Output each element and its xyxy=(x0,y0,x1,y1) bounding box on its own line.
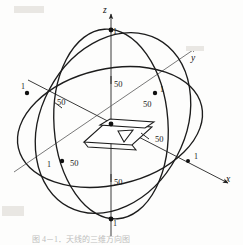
radiation-pattern-diagram: z y x 1 1 1 1 1 1 50 50 50 50 50 50 xyxy=(0,0,243,245)
peak-dot-x-positive xyxy=(186,159,190,163)
tick-label-z-negative: 1 xyxy=(113,219,117,228)
peak-dot-y-negative xyxy=(25,91,29,95)
hp-label-left: 50 xyxy=(57,97,66,107)
y-axis-line xyxy=(14,48,196,172)
z-axis-label: z xyxy=(102,5,107,15)
figure-container: z y x 1 1 1 1 1 1 50 50 50 50 50 50 图 4－… xyxy=(0,0,243,245)
hp-label-lower-left: 50 xyxy=(70,158,79,168)
hp-label-top: 50 xyxy=(114,79,123,89)
hp-label-upper-right: 50 xyxy=(143,99,152,109)
tick-label-y-positive: 1 xyxy=(160,85,164,94)
figure-caption-strip: 图 4－1．天线的三维方向图 xyxy=(0,232,243,245)
hp-label-lower-right: 50 xyxy=(155,134,164,144)
y-axis-label: y xyxy=(190,53,196,63)
figure-caption: 图 4－1．天线的三维方向图 xyxy=(32,233,130,244)
x-axis-label: x xyxy=(225,174,231,184)
tick-label-y-negative: 1 xyxy=(21,82,25,91)
origin-dot xyxy=(109,122,114,127)
peak-dot-x-negative xyxy=(60,159,64,163)
hp-label-bottom: 50 xyxy=(114,177,123,187)
tick-label-z-positive: 1 xyxy=(113,27,117,36)
tick-label-x-positive: 1 xyxy=(194,152,198,161)
peak-dot-y-positive xyxy=(153,91,157,95)
tick-label-x-negative: 1 xyxy=(47,160,51,169)
